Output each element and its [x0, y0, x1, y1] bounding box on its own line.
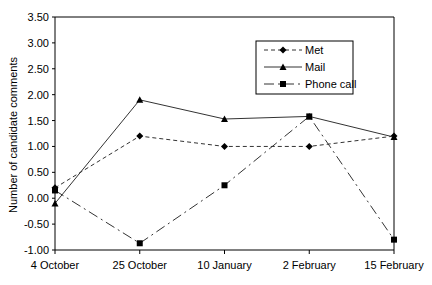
x-tick-label: 4 October: [31, 259, 80, 271]
data-point-marker: [137, 240, 143, 246]
legend-marker: [280, 81, 286, 87]
y-tick-label: 0.50: [28, 166, 49, 178]
series-line-phone-call: [55, 116, 394, 243]
data-point-marker: [306, 143, 313, 150]
data-point-marker: [306, 113, 312, 119]
legend-label: Phone call: [305, 78, 356, 90]
y-tick-label: 3.00: [28, 37, 49, 49]
x-tick-label: 25 October: [113, 259, 168, 271]
data-point-marker: [136, 96, 143, 103]
y-tick-label: 0.00: [28, 192, 49, 204]
data-point-marker: [222, 182, 228, 188]
y-axis-label: Number of candidate comments: [7, 57, 19, 213]
data-point-marker: [391, 237, 397, 243]
y-tick-label: 3.50: [28, 11, 49, 23]
x-tick-label: 2 February: [283, 259, 337, 271]
line-chart: 3.503.002.502.001.501.000.500.00-0.50-1.…: [0, 0, 432, 285]
y-tick-label: -0.50: [24, 218, 49, 230]
y-tick-label: 1.50: [28, 115, 49, 127]
legend-label: Mail: [305, 61, 325, 73]
legend: MetMailPhone call: [256, 41, 356, 94]
data-point-marker: [221, 143, 228, 150]
y-tick-label: -1.00: [24, 244, 49, 256]
y-tick-label: 2.50: [28, 63, 49, 75]
y-tick-label: 2.00: [28, 89, 49, 101]
x-tick-label: 15 February: [364, 259, 424, 271]
data-point-marker: [52, 187, 58, 193]
data-point-marker: [136, 133, 143, 140]
legend-label: Met: [305, 44, 323, 56]
x-tick-label: 10 January: [197, 259, 252, 271]
y-tick-label: 1.00: [28, 140, 49, 152]
plot-area: 3.503.002.502.001.501.000.500.00-0.50-1.…: [24, 11, 424, 271]
